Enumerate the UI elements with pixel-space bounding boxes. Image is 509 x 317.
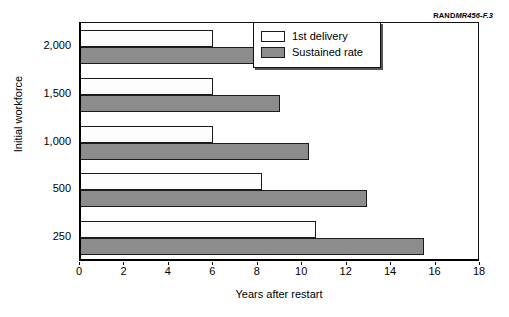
x-tick-14: 14 [375, 266, 405, 277]
y-tick-2000: 2,000 [11, 40, 71, 51]
bar-first-delivery-2000 [80, 30, 213, 47]
y-tick-1500: 1,500 [11, 88, 71, 99]
x-tick-18: 18 [464, 266, 494, 277]
x-tick-4: 4 [153, 266, 183, 277]
legend-label: Sustained rate [292, 47, 363, 58]
legend-entry-first-delivery: 1st delivery [261, 29, 372, 44]
bar-first-delivery-500 [80, 173, 262, 190]
legend-label: 1st delivery [292, 31, 348, 42]
bar-sustained-rate-500 [80, 190, 367, 207]
x-tick-6: 6 [197, 266, 227, 277]
chart-legend: 1st deliverySustained rate [253, 22, 381, 68]
bar-first-delivery-1000 [80, 126, 213, 143]
legend-swatch-icon [261, 47, 285, 58]
source-credit: RANDMR456-F.3 [433, 12, 493, 20]
x-tick-8: 8 [242, 266, 272, 277]
bar-sustained-rate-250 [80, 238, 424, 255]
y-tick-500: 500 [11, 183, 71, 194]
y-tick-250: 250 [11, 231, 71, 242]
x-tick-0: 0 [64, 266, 94, 277]
chart-figure: RANDMR456-F.3 Initial workforce 2,0001,5… [0, 0, 509, 317]
rand-label: RAND [433, 11, 455, 20]
x-axis-title: Years after restart [79, 288, 479, 300]
x-tick-12: 12 [331, 266, 361, 277]
bar-sustained-rate-2000 [80, 47, 262, 64]
legend-swatch-icon [261, 31, 285, 42]
bar-sustained-rate-1500 [80, 95, 280, 112]
x-tick-10: 10 [286, 266, 316, 277]
bar-first-delivery-250 [80, 221, 316, 238]
bar-sustained-rate-1000 [80, 143, 309, 160]
x-tick-2: 2 [108, 266, 138, 277]
document-id-label: MR456-F.3 [455, 11, 493, 20]
y-axis-tick-labels: 2,0001,5001,000500250 [9, 22, 75, 261]
legend-entry-sustained-rate: Sustained rate [261, 45, 372, 60]
x-tick-16: 16 [420, 266, 450, 277]
bar-first-delivery-1500 [80, 78, 213, 95]
x-axis-tick-labels: 024681012141618 [79, 262, 479, 282]
y-tick-1000: 1,000 [11, 136, 71, 147]
